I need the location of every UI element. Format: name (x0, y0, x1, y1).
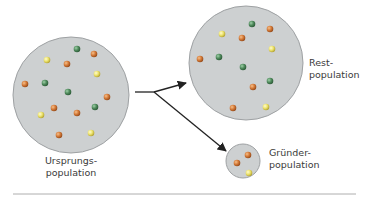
allele-yellow-dot (263, 104, 270, 111)
allele-yellow-dot (44, 57, 51, 64)
allele-orange-dot (267, 26, 274, 33)
rest-population (189, 6, 303, 120)
allele-green-dot (267, 78, 274, 85)
allele-yellow-dot (269, 46, 276, 53)
allele-orange-dot (104, 94, 111, 101)
allele-orange-dot (64, 61, 71, 68)
allele-orange-dot (51, 105, 58, 112)
allele-yellow-dot (38, 112, 45, 119)
allele-orange-dot (74, 110, 81, 117)
allele-green-dot (42, 80, 49, 87)
allele-orange-dot (91, 51, 98, 58)
allele-orange-dot (230, 105, 237, 112)
allele-green-dot (216, 54, 223, 61)
arrow-to-rest-icon (154, 83, 186, 92)
allele-green-dot (249, 21, 256, 28)
allele-yellow-dot (88, 130, 95, 137)
allele-green-dot (65, 89, 72, 96)
allele-orange-dot (197, 56, 204, 63)
founder-population-circle (226, 144, 260, 178)
rest-population-label: Rest- population (309, 57, 360, 81)
allele-orange-dot (239, 35, 246, 42)
allele-orange-dot (234, 160, 241, 167)
source-population (13, 37, 129, 153)
source-population-label: Ursprungs- population (45, 155, 97, 179)
allele-green-dot (92, 104, 99, 111)
founder-population-label: Gründer- population (269, 147, 320, 171)
allele-orange-dot (56, 132, 63, 139)
allele-green-dot (74, 46, 81, 53)
allele-yellow-dot (219, 31, 226, 38)
allele-orange-dot (245, 152, 252, 159)
rest-population-circle (189, 6, 303, 120)
allele-orange-dot (250, 84, 257, 91)
allele-green-dot (240, 64, 247, 71)
founder-population (226, 144, 260, 178)
allele-yellow-dot (246, 170, 253, 177)
allele-orange-dot (22, 81, 29, 88)
allele-yellow-dot (94, 71, 101, 78)
source-population-circle (13, 37, 129, 153)
